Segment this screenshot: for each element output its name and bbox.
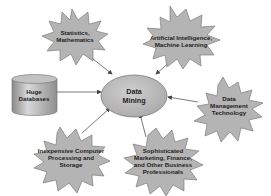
node-label: Statistics,Mathematics	[56, 29, 94, 43]
node-ai: Artificial Intelligence,Machine Learning	[143, 6, 220, 69]
arrow-data-mgmt	[168, 97, 198, 102]
node-statistics: Statistics,Mathematics	[42, 9, 108, 65]
cylinder-top	[12, 75, 57, 84]
node-label: Artificial Intelligence,Machine Learning	[150, 34, 213, 48]
node-business: SophisticatedMarketing, Finance,and Othe…	[124, 128, 203, 196]
node-databases: HugeDatabases	[12, 75, 57, 116]
data-mining-diagram: Statistics,Mathematics Artificial Intell…	[0, 0, 271, 196]
node-data-mgmt: DataManagementTechnology	[194, 77, 263, 142]
node-computing: Inexpensive ComputerProcessing andStorag…	[34, 127, 110, 193]
node-data-mining: DataMining	[101, 75, 167, 117]
arrow-computing	[82, 108, 110, 133]
arrow-business	[140, 114, 146, 137]
